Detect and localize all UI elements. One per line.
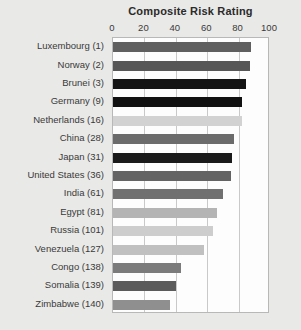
- bar-row: [113, 263, 268, 273]
- x-axis-tick-labels: 020406080100: [112, 22, 269, 36]
- bar: [113, 116, 242, 126]
- category-axis-labels: Luxembourg (1)Norway (2)Brunei (3)German…: [0, 37, 108, 313]
- category-label: Norway (2): [58, 60, 104, 70]
- bar: [113, 300, 170, 310]
- x-tick-label: 0: [109, 22, 114, 33]
- bar-row: [113, 208, 268, 218]
- bar-row: [113, 61, 268, 71]
- bar-row: [113, 281, 268, 291]
- category-label: Russia (101): [50, 225, 104, 235]
- category-label: China (28): [60, 133, 104, 143]
- plot-area: [112, 37, 269, 313]
- bar-row: [113, 189, 268, 199]
- bar: [113, 79, 246, 89]
- bar: [113, 42, 251, 52]
- bars-layer: [113, 38, 268, 312]
- x-tick-label: 60: [201, 22, 212, 33]
- bar: [113, 245, 204, 255]
- bar: [113, 226, 213, 236]
- category-label: United States (36): [27, 170, 104, 180]
- bar-row: [113, 226, 268, 236]
- bar-row: [113, 116, 268, 126]
- category-label: Zimbabwe (140): [35, 299, 104, 309]
- category-label: Brunei (3): [62, 78, 104, 88]
- composite-risk-rating-chart: Composite Risk Rating 020406080100 Luxem…: [0, 0, 301, 330]
- category-label: Luxembourg (1): [37, 41, 104, 51]
- bar: [113, 263, 181, 273]
- bar: [113, 61, 250, 71]
- x-tick-label: 40: [170, 22, 181, 33]
- bar: [113, 189, 223, 199]
- bar: [113, 171, 231, 181]
- category-label: Somalia (139): [45, 280, 104, 290]
- bar-row: [113, 97, 268, 107]
- category-label: Japan (31): [59, 152, 104, 162]
- bar-row: [113, 153, 268, 163]
- x-tick-label: 20: [138, 22, 149, 33]
- category-label: Congo (138): [51, 262, 104, 272]
- bar-row: [113, 42, 268, 52]
- category-label: Germany (9): [51, 96, 104, 106]
- bar-row: [113, 300, 268, 310]
- x-tick-label: 100: [261, 22, 277, 33]
- bar-row: [113, 134, 268, 144]
- category-label: Netherlands (16): [33, 115, 104, 125]
- bar-row: [113, 171, 268, 181]
- category-label: India (61): [64, 188, 104, 198]
- bar: [113, 134, 234, 144]
- bar: [113, 97, 242, 107]
- category-label: Egypt (81): [60, 207, 104, 217]
- chart-title: Composite Risk Rating: [112, 5, 269, 17]
- bar: [113, 281, 176, 291]
- bar-row: [113, 79, 268, 89]
- x-tick-label: 80: [232, 22, 243, 33]
- bar-row: [113, 245, 268, 255]
- category-label: Venezuela (127): [35, 244, 104, 254]
- bar: [113, 153, 232, 163]
- bar: [113, 208, 217, 218]
